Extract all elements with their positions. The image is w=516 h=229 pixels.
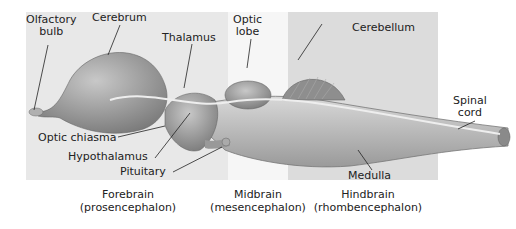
region-latin: (mesencephalon)	[206, 201, 310, 214]
label-line: cord	[453, 107, 487, 119]
label-spinal-cord: Spinal cord	[453, 95, 487, 119]
region-name: Forebrain	[78, 188, 178, 201]
region-name: Hindbrain	[308, 188, 428, 201]
label-medulla: Medulla	[348, 170, 391, 182]
label-hypothalamus: Hypothalamus	[68, 151, 148, 163]
optic-lobe-shape	[225, 81, 271, 109]
olfactory-bulb-shape	[29, 108, 43, 116]
label-pituitary: Pituitary	[120, 166, 166, 178]
pituitary-shape	[222, 138, 230, 146]
label-optic-chiasma: Optic chiasma	[38, 132, 117, 144]
label-olfactory-bulb: Olfactory bulb	[26, 14, 76, 38]
label-thalamus: Thalamus	[162, 32, 216, 44]
label-optic-lobe: Optic lobe	[233, 14, 262, 38]
region-hindbrain: Hindbrain (rhombencephalon)	[308, 188, 428, 214]
region-latin: (rhombencephalon)	[308, 201, 428, 214]
label-cerebrum: Cerebrum	[92, 12, 147, 24]
label-line: bulb	[26, 26, 76, 38]
region-midbrain: Midbrain (mesencephalon)	[206, 188, 310, 214]
region-latin: (prosencephalon)	[78, 201, 178, 214]
region-forebrain: Forebrain (prosencephalon)	[78, 188, 178, 214]
region-name: Midbrain	[206, 188, 310, 201]
label-line: lobe	[233, 26, 262, 38]
label-cerebellum: Cerebellum	[352, 22, 415, 34]
